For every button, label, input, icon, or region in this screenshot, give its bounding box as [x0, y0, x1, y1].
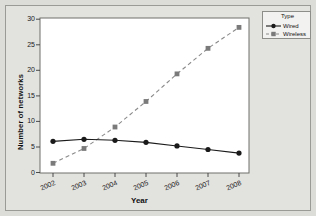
- data-point-wired: [205, 147, 210, 152]
- x-axis-title: Year: [131, 196, 148, 205]
- legend-swatch-wired: [265, 22, 282, 30]
- data-point-wireless: [237, 25, 242, 30]
- legend-label-wired: Wired: [283, 23, 299, 29]
- data-point-wired: [143, 140, 148, 145]
- y-tick-label: 30: [24, 15, 35, 22]
- x-axis-ticks: [53, 173, 239, 177]
- y-axis-title: Number of networks: [16, 74, 25, 150]
- data-point-wireless: [51, 161, 56, 166]
- data-point-wired: [174, 143, 179, 148]
- legend-label-wireless: Wireless: [283, 31, 306, 37]
- y-tick-label: 10: [24, 117, 35, 124]
- y-tick-label: 5: [24, 143, 35, 150]
- data-point-wired: [236, 150, 241, 155]
- y-axis-ticks: [36, 19, 40, 172]
- legend-item-wired[interactable]: Wired: [265, 22, 310, 30]
- y-tick-label: 15: [24, 92, 35, 99]
- y-tick-label: 0: [24, 169, 35, 176]
- legend-title: Type: [263, 13, 312, 19]
- data-point-wired: [81, 137, 86, 142]
- data-point-wireless: [206, 46, 211, 51]
- y-tick-label: 25: [24, 41, 35, 48]
- legend-item-wireless[interactable]: Wireless: [265, 30, 310, 38]
- data-point-wireless: [144, 99, 149, 104]
- data-point-wireless: [82, 146, 87, 151]
- figure-outer-frame: 051015202530 200220032004200520062007200…: [0, 0, 316, 216]
- y-tick-label: 20: [24, 66, 35, 73]
- data-point-wired: [50, 139, 55, 144]
- legend-swatch-wireless: [265, 30, 282, 38]
- data-point-wireless: [175, 71, 180, 76]
- data-point-wireless: [113, 125, 118, 130]
- line-chart: 051015202530 200220032004200520062007200…: [0, 0, 316, 216]
- data-point-wired: [112, 138, 117, 143]
- legend[interactable]: Type Wired Wireless: [262, 11, 311, 39]
